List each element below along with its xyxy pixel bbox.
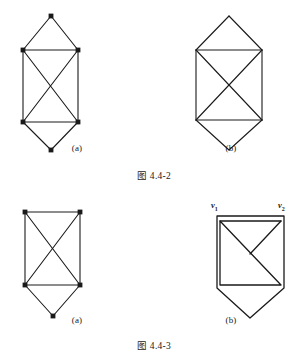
vertex-dot [76,120,81,125]
edge-t-ul [23,16,51,50]
figure-4-4-2-panel-a: (a) [0,0,154,160]
panel-label-443a: (a) [0,315,154,325]
edge-lr-b [53,285,80,316]
vertex-dot [21,120,26,125]
vertex-dot [49,14,54,19]
figure-4-4-3: (a) v1 v2 (b) 图 4.4-3 [0,190,308,355]
graph-diagram-443a [0,190,154,330]
vertex-dot [23,210,28,215]
figure-4-4-3-panels: (a) v1 v2 (b) [0,190,308,330]
edge-v2-ll-upper [250,221,281,254]
edge-t-ur [229,16,262,50]
panel-label-442a: (a) [0,143,154,153]
figure-4-4-3-panel-b: v1 v2 (b) [154,190,308,330]
vertex-dot [21,48,26,53]
vertex-group-442a [21,14,81,153]
vertex-label-v2: v2 [278,200,285,212]
vertex-label-v1: v1 [211,200,218,212]
edge-ll-b [25,285,53,316]
vertex-label-v2-sub: 2 [282,206,285,212]
vertex-label-v1-sub: 1 [215,206,218,212]
outline-closed-curve [217,216,284,318]
edge-t-ur [51,16,78,50]
graph-diagram-442b [154,0,308,160]
vertex-dot [78,283,83,288]
vertex-group-443a [23,210,83,319]
graph-diagram-442a [0,0,154,160]
figure-caption-443: 图 4.4-3 [0,338,308,352]
figure-caption-442: 图 4.4-2 [0,168,308,182]
vertex-dot [78,210,83,215]
panel-label-443b: (b) [154,315,308,325]
vertex-dot [23,283,28,288]
graph-diagram-443b [154,190,308,330]
figure-4-4-2-panels: (a) (b) [0,0,308,160]
figure-4-4-2: (a) (b) 图 4.4-2 [0,0,308,190]
edge-t-ul [196,16,229,50]
vertex-dot [76,48,81,53]
figure-4-4-2-panel-b: (b) [154,0,308,160]
panel-label-442b: (b) [154,143,308,153]
figure-4-4-3-panel-a: (a) [0,190,154,330]
